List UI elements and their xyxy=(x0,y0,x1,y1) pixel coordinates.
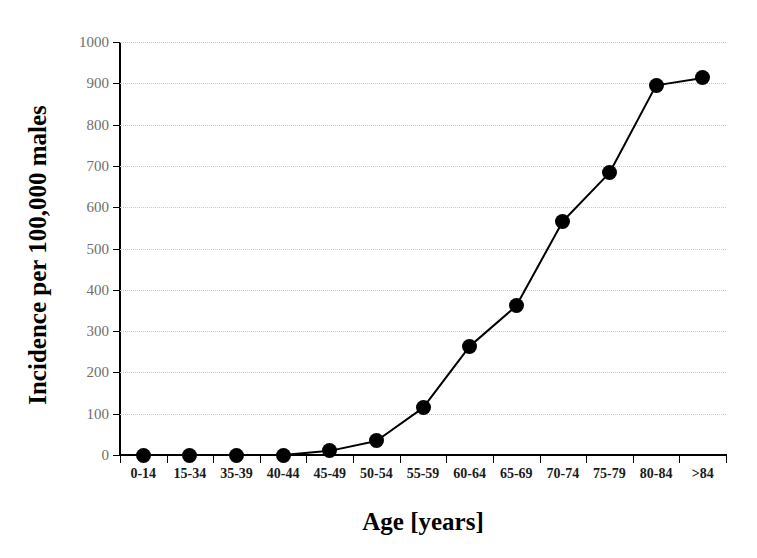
x-axis-tick xyxy=(446,455,447,463)
y-axis-tick xyxy=(113,414,120,415)
x-axis-tick xyxy=(306,455,307,463)
x-axis-tick xyxy=(167,455,168,463)
x-axis-tick-label: 60-64 xyxy=(453,466,486,482)
series-line xyxy=(120,42,726,455)
y-axis-tick xyxy=(113,207,120,208)
y-axis-tick-label: 300 xyxy=(87,323,110,340)
x-axis-tick xyxy=(540,455,541,463)
x-axis-tick-label: 65-69 xyxy=(500,466,533,482)
data-point xyxy=(182,448,197,463)
y-axis-tick xyxy=(113,290,120,291)
x-axis-title: Age [years] xyxy=(120,508,726,536)
x-axis-tick xyxy=(633,455,634,463)
y-axis-tick xyxy=(113,331,120,332)
plot-area: 01002003004005006007008009001000 0-1415-… xyxy=(120,42,726,455)
x-axis-tick xyxy=(353,455,354,463)
chart-figure: Incidence per 100,000 males 010020030040… xyxy=(0,0,757,558)
x-axis-tick-label: 70-74 xyxy=(547,466,580,482)
y-axis-tick-label: 900 xyxy=(87,75,110,92)
x-axis-tick-label: 35-39 xyxy=(220,466,253,482)
x-axis-tick xyxy=(120,455,121,463)
data-point xyxy=(649,78,664,93)
x-axis-tick xyxy=(586,455,587,463)
data-point xyxy=(276,448,291,463)
x-axis-tick xyxy=(493,455,494,463)
data-point xyxy=(229,448,244,463)
y-axis-tick-label: 1000 xyxy=(79,34,109,51)
y-axis-tick-label: 600 xyxy=(87,199,110,216)
y-axis-tick-label: 500 xyxy=(87,240,110,257)
x-axis-tick-label: 15-34 xyxy=(174,466,207,482)
y-axis-tick xyxy=(113,166,120,167)
y-axis-tick xyxy=(113,125,120,126)
x-axis-tick-label: 50-54 xyxy=(360,466,393,482)
x-axis-tick xyxy=(213,455,214,463)
data-point xyxy=(136,448,151,463)
y-axis-tick-label: 800 xyxy=(87,116,110,133)
y-axis-tick-label: 100 xyxy=(87,405,110,422)
y-axis-tick xyxy=(113,249,120,250)
x-axis-tick-label: 0-14 xyxy=(130,466,156,482)
y-axis-tick-label: 200 xyxy=(87,364,110,381)
data-point xyxy=(462,339,477,354)
x-axis-tick-label: 45-49 xyxy=(313,466,346,482)
data-point xyxy=(322,443,337,458)
data-point xyxy=(555,214,570,229)
x-axis-tick-label: 80-84 xyxy=(640,466,673,482)
y-axis-tick-label: 400 xyxy=(87,281,110,298)
y-axis-tick xyxy=(113,83,120,84)
y-axis-tick xyxy=(113,372,120,373)
y-axis-tick-label: 0 xyxy=(102,447,110,464)
x-axis-tick-label: >84 xyxy=(692,466,714,482)
y-axis-tick xyxy=(113,455,120,456)
x-axis-tick xyxy=(726,455,727,463)
x-axis-tick xyxy=(400,455,401,463)
y-axis-tick-label: 700 xyxy=(87,157,110,174)
x-axis-tick-label: 55-59 xyxy=(407,466,440,482)
y-axis-title: Incidence per 100,000 males xyxy=(18,30,58,480)
x-axis-tick-label: 40-44 xyxy=(267,466,300,482)
x-axis-tick xyxy=(260,455,261,463)
y-axis-tick xyxy=(113,42,120,43)
x-axis-tick xyxy=(679,455,680,463)
x-axis-tick-label: 75-79 xyxy=(593,466,626,482)
data-point xyxy=(416,400,431,415)
